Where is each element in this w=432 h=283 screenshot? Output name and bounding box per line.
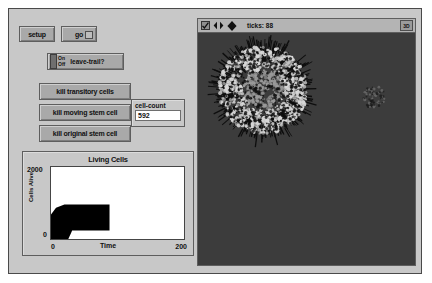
- switch-off-label: Off: [58, 62, 65, 68]
- threed-button[interactable]: 3D: [400, 20, 413, 31]
- world-render: [198, 33, 415, 265]
- plot-line-cells-alive: [51, 217, 110, 239]
- leave-trail-label: leave-trail?: [70, 58, 104, 65]
- plot-x-axis-label: Time: [23, 242, 193, 249]
- setup-button[interactable]: setup: [19, 26, 55, 42]
- plot-y-min-tick: 0: [43, 231, 47, 238]
- living-cells-plot[interactable]: Living Cells 2000 0 Cells Alive 0 Time 2…: [22, 151, 194, 256]
- plot-title: Living Cells: [23, 155, 193, 164]
- kill-moving-stem-cell-button[interactable]: kill moving stem cell: [39, 104, 131, 121]
- kill-transitory-cells-button[interactable]: kill transitory cells: [39, 83, 131, 100]
- horizontal-arrows-icon[interactable]: [213, 21, 224, 30]
- plot-x-max-tick: 200: [175, 243, 187, 250]
- view-toolbar: ticks: 88 3D: [198, 19, 415, 33]
- kill-transitory-cells-label: kill transitory cells: [56, 88, 113, 95]
- plot-canvas: [50, 166, 185, 240]
- switch-knob-icon[interactable]: [50, 54, 57, 69]
- leave-trail-switch[interactable]: On Off leave-trail?: [47, 53, 124, 70]
- setup-button-label: setup: [28, 31, 46, 38]
- plot-series-svg: [51, 167, 184, 239]
- go-button-label: go: [75, 31, 83, 38]
- kill-original-stem-cell-label: kill original stem cell: [53, 130, 117, 137]
- kill-moving-stem-cell-label: kill moving stem cell: [53, 109, 117, 116]
- ticks-readout: ticks: 88: [247, 22, 273, 29]
- cell-count-monitor[interactable]: cell-count 592: [131, 99, 185, 127]
- world-canvas[interactable]: [198, 33, 415, 265]
- four-way-move-icon[interactable]: [227, 21, 237, 31]
- switch-states: On Off: [58, 56, 65, 68]
- world-view-panel[interactable]: ticks: 88 3D: [197, 18, 416, 266]
- cell-count-label: cell-count: [135, 102, 184, 109]
- plot-y-axis-label: Cells Alive: [28, 166, 34, 208]
- go-button[interactable]: go: [61, 26, 97, 42]
- kill-original-stem-cell-button[interactable]: kill original stem cell: [39, 125, 131, 142]
- forever-loop-icon: [85, 31, 93, 39]
- plot-canvas-wrap: [50, 166, 185, 240]
- cell-count-value: 592: [135, 110, 181, 121]
- checkbox-icon[interactable]: [201, 21, 210, 30]
- control-panel: setup go On Off leave-trail? kill transi…: [9, 9, 194, 273]
- netlogo-window: setup go On Off leave-trail? kill transi…: [8, 8, 422, 274]
